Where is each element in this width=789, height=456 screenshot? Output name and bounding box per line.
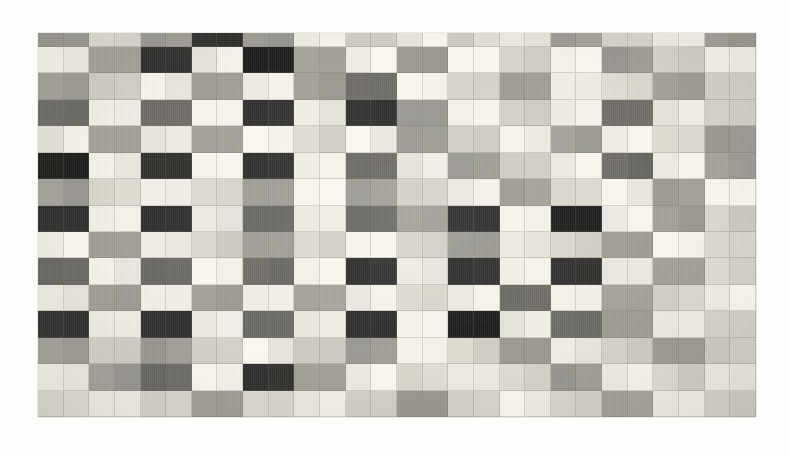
grid-tile-mid-gray (705, 153, 731, 179)
grid-tile-white (294, 206, 320, 232)
grid-tile-light-gray (525, 153, 551, 179)
grid-tile-mid-gray (730, 33, 756, 47)
grid-tile-white (141, 179, 167, 205)
grid-tile-white (602, 206, 628, 232)
grid-tile-light-gray (192, 232, 218, 258)
grid-tile-light-gray (320, 126, 346, 152)
grid-tile-dark-gray (269, 258, 295, 284)
grid-tile-mid-gray (653, 338, 679, 364)
grid-tile-white (653, 311, 679, 337)
grid-tile-light-gray (500, 100, 526, 126)
grid-tile-mid-gray (679, 338, 705, 364)
grid-tile-mid-gray (500, 338, 526, 364)
grid-tile-mid-gray (269, 179, 295, 205)
grid-tile-white (423, 338, 449, 364)
grid-tile-charcoal (551, 258, 577, 284)
grid-tile-dark-gray (346, 153, 372, 179)
grid-tile-charcoal (192, 33, 218, 47)
grid-tile-light-gray (474, 126, 500, 152)
grid-tile-white (320, 206, 346, 232)
grid-tile-white (653, 100, 679, 126)
grid-tile-white (628, 206, 654, 232)
grid-tile-mid-gray (423, 126, 449, 152)
grid-tile-light-gray (89, 73, 115, 99)
grid-tile-white (294, 258, 320, 284)
grid-tile-white (679, 311, 705, 337)
grid-tile-mid-gray (294, 73, 320, 99)
grid-tile-mid-gray (320, 364, 346, 390)
grid-tile-light-gray (730, 100, 756, 126)
grid-tile-light-gray (448, 338, 474, 364)
grid-tile-white (628, 258, 654, 284)
grid-tile-white (243, 338, 269, 364)
grid-tile-white (115, 311, 141, 337)
grid-tile-white (294, 391, 320, 417)
grid-tile-mid-gray (64, 338, 90, 364)
grid-tile-mid-gray (679, 206, 705, 232)
grid-tile-white (602, 126, 628, 152)
grid-tile-white (192, 153, 218, 179)
grid-tile-dark-gray (243, 206, 269, 232)
grid-tile-light-gray (525, 47, 551, 73)
grid-tile-light-gray (602, 338, 628, 364)
grid-tile-light-gray (730, 391, 756, 417)
grid-tile-white (653, 391, 679, 417)
grid-tile-white (64, 364, 90, 390)
grid-tile-white (217, 364, 243, 390)
grid-tile-white (602, 179, 628, 205)
grid-tile-dark-gray (525, 285, 551, 311)
grid-tile-light-gray (397, 232, 423, 258)
grid-tile-charcoal (243, 153, 269, 179)
grid-tile-light-gray (474, 33, 500, 47)
grid-tile-mid-gray (653, 206, 679, 232)
grid-tile-charcoal (166, 206, 192, 232)
grid-tile-white (628, 364, 654, 390)
grid-tile-mid-gray (192, 126, 218, 152)
grid-tile-white (371, 232, 397, 258)
grid-tile-black (243, 47, 269, 73)
grid-tile-dark-gray (243, 311, 269, 337)
grid-tile-light-gray (576, 232, 602, 258)
grid-tile-charcoal (576, 258, 602, 284)
grid-tile-light-gray (705, 232, 731, 258)
grid-tile-white (346, 364, 372, 390)
grid-tile-white (525, 126, 551, 152)
grid-tile-white (166, 73, 192, 99)
grid-tile-mid-gray (243, 33, 269, 47)
grid-tile-white (217, 100, 243, 126)
grid-tile-charcoal (371, 258, 397, 284)
grid-tile-light-gray (576, 391, 602, 417)
grid-tile-white (38, 285, 64, 311)
grid-tile-mid-gray (602, 391, 628, 417)
grid-tile-white (320, 100, 346, 126)
grid-tile-dark-gray (64, 258, 90, 284)
grid-tile-mid-gray (730, 126, 756, 152)
grid-tile-charcoal (474, 206, 500, 232)
grid-tile-charcoal (64, 311, 90, 337)
grid-tile-white (525, 33, 551, 47)
grid-tile-light-gray (294, 232, 320, 258)
grid-tile-dark-gray (371, 73, 397, 99)
grid-tile-white (448, 100, 474, 126)
grid-tile-light-gray (730, 338, 756, 364)
grid-tile-black (448, 311, 474, 337)
grid-tile-dark-gray (64, 100, 90, 126)
grid-tile-white (730, 179, 756, 205)
grid-tile-light-gray (294, 338, 320, 364)
grid-tile-dark-gray (38, 258, 64, 284)
grid-tile-dark-gray (166, 364, 192, 390)
grid-tile-charcoal (269, 364, 295, 390)
grid-tile-white (115, 100, 141, 126)
grid-tile-light-gray (628, 73, 654, 99)
grid-tile-white (38, 232, 64, 258)
grid-tile-light-gray (705, 391, 731, 417)
grid-tile-mid-gray (448, 232, 474, 258)
grid-tile-mid-gray (371, 338, 397, 364)
grid-tile-white (89, 206, 115, 232)
grid-tile-white (166, 126, 192, 152)
grid-tile-white (346, 47, 372, 73)
grid-tile-white (64, 47, 90, 73)
grid-tile-mid-gray (192, 391, 218, 417)
grid-tile-light-gray (423, 285, 449, 311)
grid-tile-light-gray (320, 338, 346, 364)
